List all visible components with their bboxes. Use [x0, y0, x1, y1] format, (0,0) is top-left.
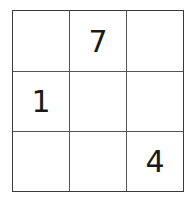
cell-r1c2[interactable]: 7 — [70, 11, 127, 72]
cell-r1c1[interactable] — [13, 11, 70, 72]
cell-r1c3[interactable] — [127, 11, 183, 72]
cell-r2c3[interactable] — [127, 72, 183, 132]
cell-r3c1[interactable] — [13, 132, 70, 191]
cell-r2c1[interactable]: 1 — [13, 72, 70, 132]
puzzle-grid: 7 1 4 — [12, 10, 184, 192]
cell-r3c3[interactable]: 4 — [127, 132, 183, 191]
cell-r2c2[interactable] — [70, 72, 127, 132]
cell-r3c2[interactable] — [70, 132, 127, 191]
